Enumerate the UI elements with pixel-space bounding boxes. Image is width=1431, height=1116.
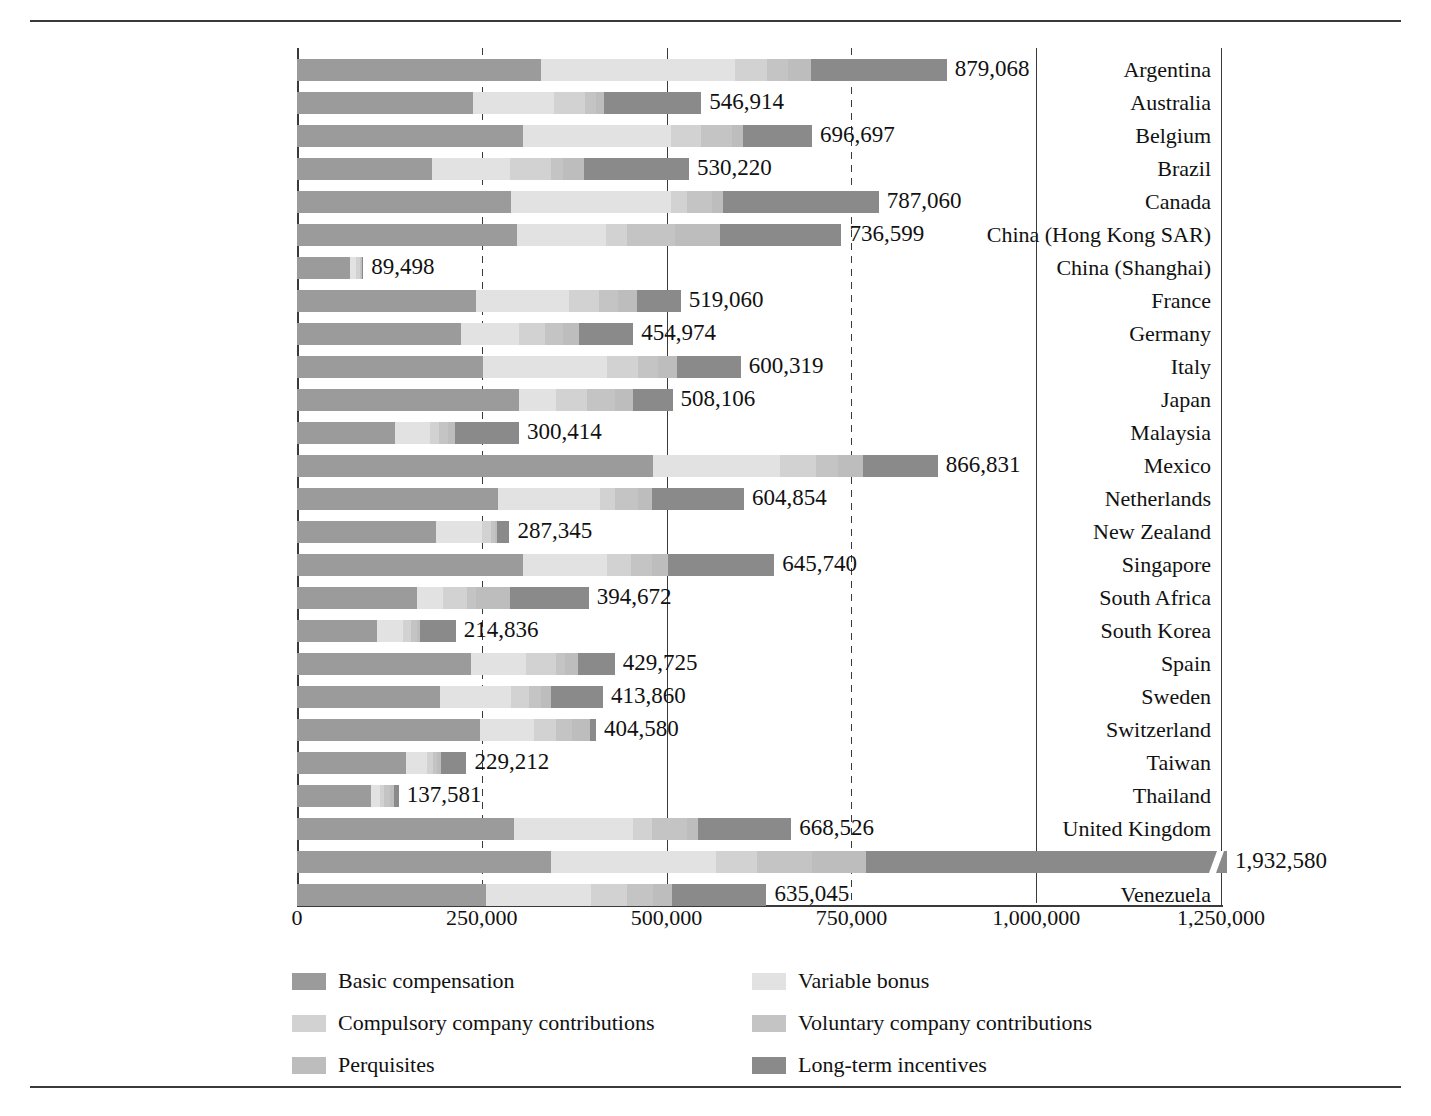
stacked-bar[interactable]	[297, 752, 466, 774]
bar-segment	[297, 686, 440, 708]
bar-segment	[297, 653, 471, 675]
stacked-bar[interactable]	[297, 719, 596, 741]
bar-segment	[486, 884, 591, 906]
stacked-bar[interactable]	[297, 422, 519, 444]
category-label: New Zealand	[931, 515, 1211, 548]
bar-row[interactable]: Taiwan229,212	[297, 746, 1221, 779]
bar-row[interactable]: United Kingdom668,526	[297, 812, 1221, 845]
bar-segment	[541, 59, 735, 81]
bar-row[interactable]: Argentina879,068	[297, 53, 1221, 86]
bar-row[interactable]: Canada787,060	[297, 185, 1221, 218]
bar-row[interactable]: Thailand137,581	[297, 779, 1221, 812]
stacked-bar[interactable]	[297, 224, 841, 246]
stacked-bar[interactable]	[297, 191, 879, 213]
bar-value-label: 546,914	[709, 85, 784, 118]
bar-row[interactable]: New Zealand287,345	[297, 515, 1221, 548]
bar-row[interactable]: Spain429,725	[297, 647, 1221, 680]
stacked-bar[interactable]	[297, 653, 615, 675]
bar-row[interactable]: Japan508,106	[297, 383, 1221, 416]
bar-row[interactable]: Brazil530,220	[297, 152, 1221, 185]
bar-segment	[362, 257, 363, 279]
x-tick-label: 1,000,000	[992, 905, 1080, 931]
category-label: Japan	[931, 383, 1211, 416]
stacked-bar[interactable]	[297, 356, 741, 378]
bar-value-label: 214,836	[464, 613, 539, 646]
stacked-bar[interactable]	[297, 455, 938, 477]
bar-segment	[498, 488, 600, 510]
bar-value-label: 137,581	[407, 778, 482, 811]
stacked-bar[interactable]	[297, 521, 509, 543]
stacked-bar[interactable]	[297, 389, 673, 411]
bar-row[interactable]: Switzerland404,580	[297, 713, 1221, 746]
stacked-bar[interactable]	[297, 554, 774, 576]
x-tick-label: 750,000	[816, 905, 888, 931]
bar-segment	[511, 191, 671, 213]
stacked-bar[interactable]	[297, 92, 701, 114]
bar-value-label: 645,740	[782, 547, 857, 580]
stacked-bar[interactable]	[297, 818, 791, 840]
bar-segment	[637, 290, 681, 312]
bar-segment	[816, 455, 838, 477]
stacked-bar[interactable]	[297, 686, 603, 708]
stacked-bar[interactable]	[297, 59, 947, 81]
bar-row[interactable]: Italy600,319	[297, 350, 1221, 383]
stacked-bar[interactable]	[297, 323, 633, 345]
bar-segment	[615, 389, 633, 411]
bar-row[interactable]: Mexico866,831	[297, 449, 1221, 482]
bar-segment	[743, 125, 812, 147]
bar-segment	[441, 752, 466, 774]
stacked-bar[interactable]	[297, 851, 1227, 873]
category-label: South Korea	[931, 614, 1211, 647]
bar-segment	[668, 554, 774, 576]
bar-row[interactable]: Australia546,914	[297, 86, 1221, 119]
category-label: Spain	[931, 647, 1211, 680]
stacked-bar[interactable]	[297, 257, 363, 279]
legend-swatch	[292, 1057, 326, 1074]
legend-label: Basic compensation	[338, 966, 515, 996]
bar-row[interactable]: Venezuela635,045	[297, 878, 1221, 911]
bar-segment	[297, 422, 395, 444]
bar-row[interactable]: Germany454,974	[297, 317, 1221, 350]
bar-segment	[627, 884, 654, 906]
bar-row[interactable]: South Africa394,672	[297, 581, 1221, 614]
bar-row[interactable]: France519,060	[297, 284, 1221, 317]
bar-segment	[633, 389, 673, 411]
stacked-bar[interactable]	[297, 884, 766, 906]
bar-value-label: 736,599	[849, 217, 924, 250]
bar-value-label: 89,498	[371, 250, 434, 283]
bar-row[interactable]: Singapore645,740	[297, 548, 1221, 581]
bar-row[interactable]: China (Shanghai)89,498	[297, 251, 1221, 284]
bar-row[interactable]: Sweden413,860	[297, 680, 1221, 713]
legend-swatch	[292, 973, 326, 990]
bar-segment	[723, 191, 879, 213]
bar-row[interactable]: Malaysia300,414	[297, 416, 1221, 449]
bar-segment	[767, 59, 788, 81]
bar-segment	[671, 191, 687, 213]
category-label: China (Shanghai)	[931, 251, 1211, 284]
stacked-bar[interactable]	[297, 785, 399, 807]
bar-segment	[523, 125, 671, 147]
stacked-bar[interactable]	[297, 587, 589, 609]
category-label: Brazil	[931, 152, 1211, 185]
bar-row[interactable]: China (Hong Kong SAR)736,599	[297, 218, 1221, 251]
gridline-1250000	[1221, 48, 1222, 903]
bar-value-label: 787,060	[887, 184, 962, 217]
bar-segment	[483, 356, 607, 378]
bar-row[interactable]: United States1,932,580	[297, 845, 1221, 878]
bar-segment	[511, 686, 529, 708]
stacked-bar[interactable]	[297, 488, 744, 510]
x-tick-label: 1,250,000	[1177, 905, 1265, 931]
stacked-bar[interactable]	[297, 125, 812, 147]
bar-segment	[439, 422, 448, 444]
bar-segment	[395, 422, 430, 444]
bar-value-label: 454,974	[641, 316, 716, 349]
bar-row[interactable]: Belgium696,697	[297, 119, 1221, 152]
bar-row[interactable]: Netherlands604,854	[297, 482, 1221, 515]
bar-segment	[551, 158, 563, 180]
bar-value-label: 429,725	[623, 646, 698, 679]
bar-row[interactable]: South Korea214,836	[297, 614, 1221, 647]
stacked-bar[interactable]	[297, 620, 456, 642]
stacked-bar[interactable]	[297, 290, 681, 312]
stacked-bar[interactable]	[297, 158, 689, 180]
bar-segment	[297, 587, 417, 609]
